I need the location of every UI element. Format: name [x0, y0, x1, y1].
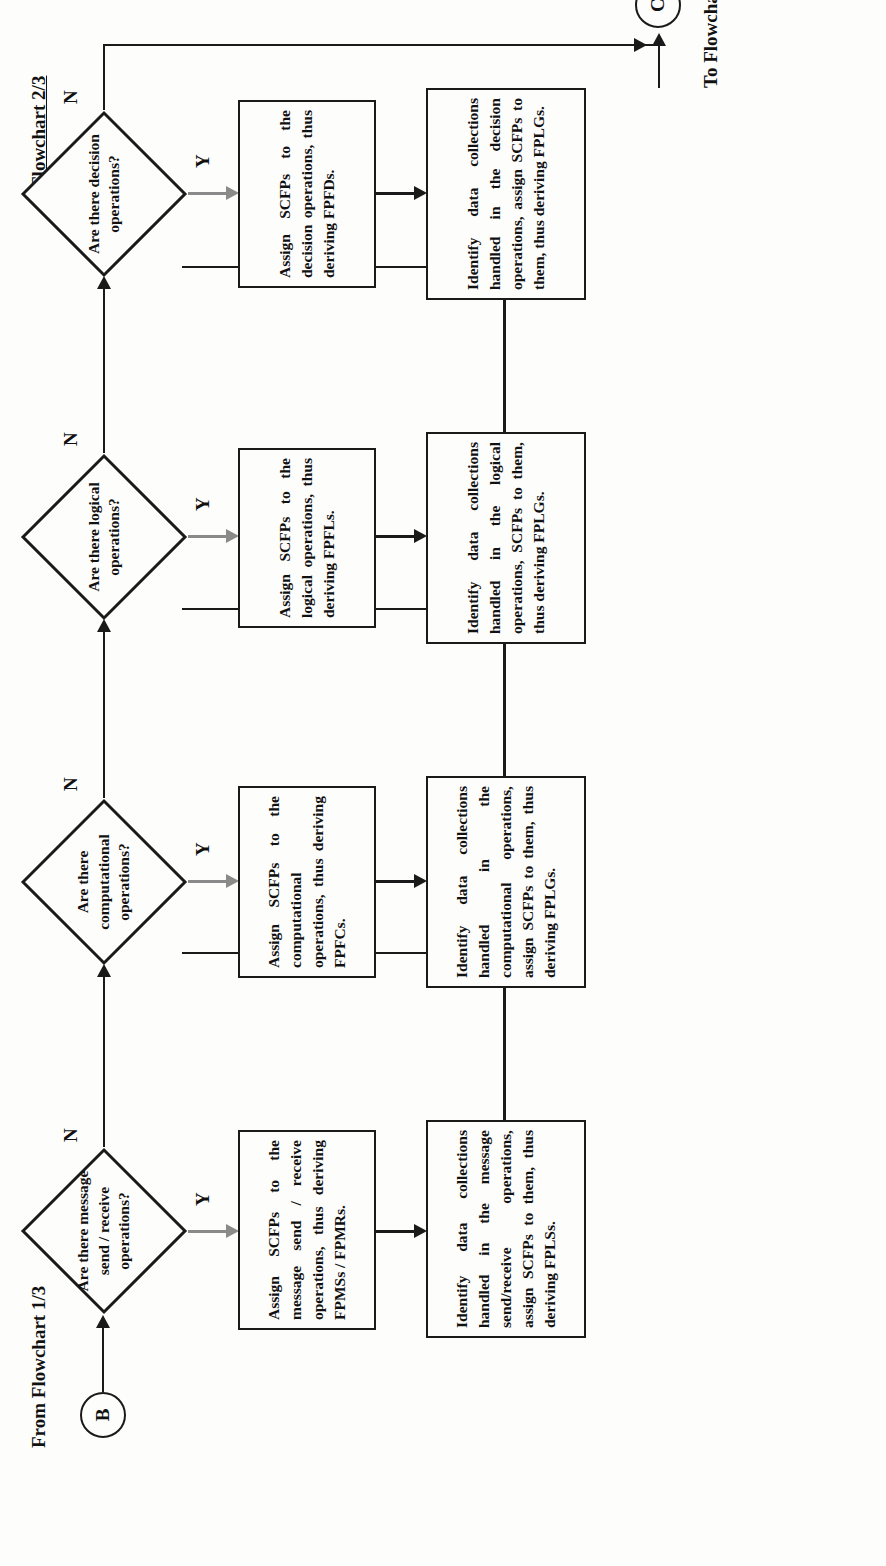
label-no-logical: N	[60, 432, 82, 446]
edge-logical-no	[103, 287, 106, 453]
decision-message-text: Are there message send / receive operati…	[20, 1147, 188, 1315]
decision-message[interactable]: Are there message send / receive operati…	[20, 1147, 188, 1315]
process-identify-decision[interactable]: Identify data collections handled in the…	[426, 88, 586, 300]
process-assign-computational[interactable]: Assign SCFPs to the computational operat…	[238, 786, 376, 978]
decision-logical-text: Are there logical operations?	[20, 453, 188, 621]
process-identify-logical[interactable]: Identify data collections handled in the…	[426, 432, 586, 644]
label-no-computational: N	[60, 777, 82, 791]
decision-logical[interactable]: Are there logical operations?	[20, 453, 188, 621]
edge-assign-to-identify-message	[376, 1231, 418, 1234]
label-yes-computational: Y	[192, 842, 214, 856]
decision-computational[interactable]: Are there computational operations?	[20, 798, 188, 966]
edge-decision-no-h	[103, 44, 106, 110]
process-assign-logical[interactable]: Assign SCFPs to the logical operations, …	[238, 448, 376, 628]
exit-label: To Flowchart 3/3	[700, 0, 722, 88]
flowchart-canvas: Flowchart 2/3 From Flowchart 1/3 B Are t…	[0, 0, 886, 1566]
edge-message-no	[103, 975, 106, 1147]
decision-decision[interactable]: Are there decision operations?	[20, 110, 188, 278]
edge-assign-to-identify-decision	[376, 193, 418, 196]
edge-computational-no	[103, 630, 106, 798]
edge-decision-no-v	[103, 44, 649, 47]
edge-b-to-message-decision	[102, 1326, 105, 1392]
arrowhead-to-connector-c	[652, 33, 666, 46]
edge-logical-yes	[188, 536, 230, 539]
edge-decision-yes	[188, 193, 230, 196]
process-assign-message[interactable]: Assign SCFPs to the message send / recei…	[238, 1130, 376, 1330]
process-assign-decision[interactable]: Assign SCFPs to the decision operations,…	[238, 100, 376, 288]
edge-computational-yes	[188, 881, 230, 884]
flowchart-landscape-stage: Flowchart 2/3 From Flowchart 1/3 B Are t…	[0, 0, 886, 1566]
label-no-message: N	[60, 1128, 82, 1142]
edge-assign-to-identify-computational	[376, 881, 418, 884]
connector-b: B	[80, 1392, 126, 1438]
connector-c: C	[635, 0, 681, 28]
label-no-decision: N	[60, 90, 82, 104]
process-identify-computational[interactable]: Identify data collections handled in the…	[426, 776, 586, 988]
decision-decision-text: Are there decision operations?	[20, 110, 188, 278]
label-yes-message: Y	[192, 1192, 214, 1206]
arrowhead-b-to-message-decision	[96, 1315, 110, 1328]
arrowhead-decision-no	[634, 38, 647, 52]
decision-computational-text: Are there computational operations?	[20, 798, 188, 966]
edge-assign-to-identify-logical	[376, 536, 418, 539]
label-yes-decision: Y	[192, 154, 214, 168]
edge-message-yes	[188, 1231, 230, 1234]
label-yes-logical: Y	[192, 497, 214, 511]
edge-identify-decision-out	[658, 46, 661, 88]
process-identify-message[interactable]: Identify data collections handled in the…	[426, 1120, 586, 1338]
